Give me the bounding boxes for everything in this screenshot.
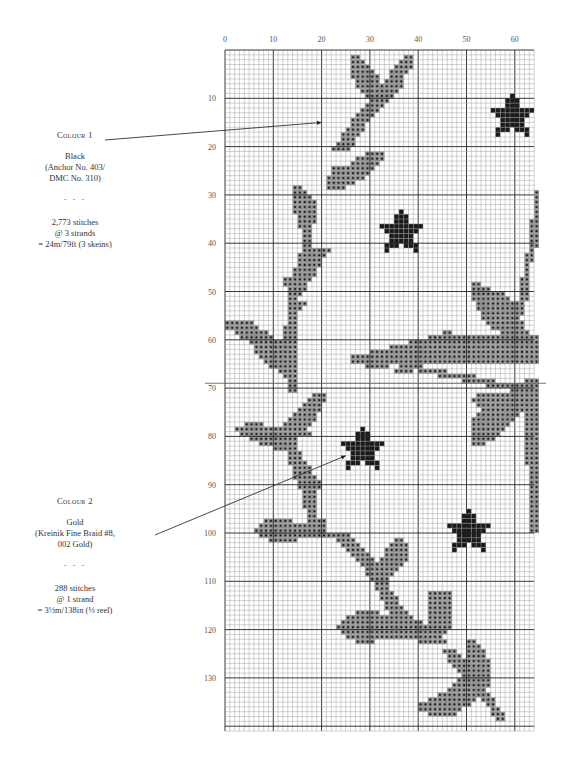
cross-stitch-chart	[0, 0, 567, 770]
